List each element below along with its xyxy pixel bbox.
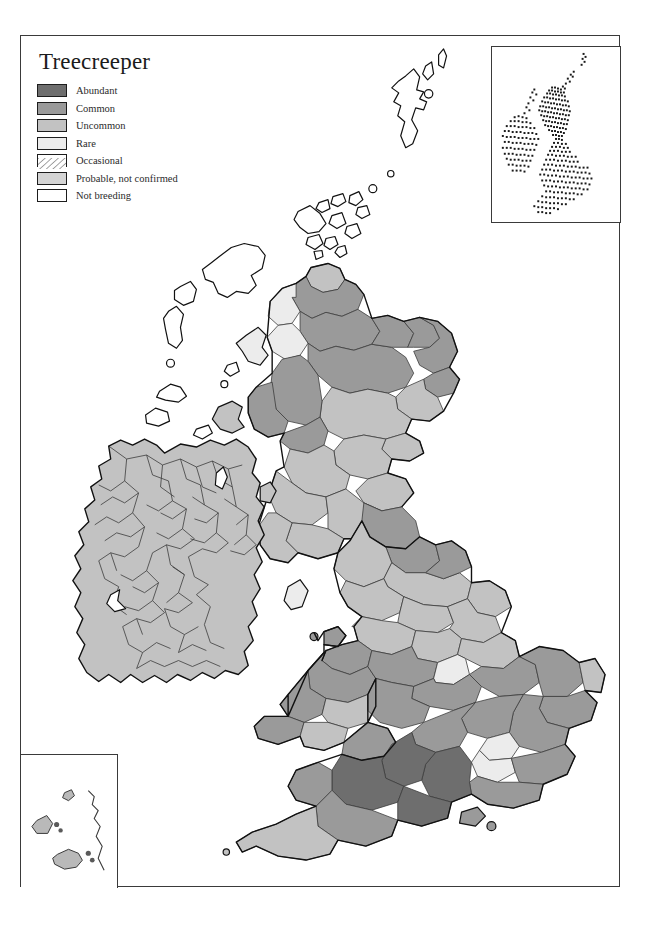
map-page: .abundant {fill:#6e6e6e;} .common {fill:…	[0, 0, 655, 926]
legend-label-common: Common	[76, 103, 115, 114]
legend-swatch-probable	[37, 172, 67, 185]
legend-swatch-common	[37, 102, 67, 115]
legend-item-abundant[interactable]: Abundant	[37, 84, 247, 97]
channel-islands-inset[interactable]	[21, 754, 118, 888]
region-orkney[interactable]	[294, 185, 377, 260]
legend-label-rare: Rare	[76, 138, 96, 149]
legend-swatch-rare	[37, 137, 67, 150]
region-isle-of-man[interactable]	[284, 580, 308, 610]
region-shetland[interactable]	[392, 49, 447, 148]
hatch-pattern-icon	[38, 158, 66, 169]
map-plate: .abundant {fill:#6e6e6e;} .common {fill:…	[20, 35, 620, 887]
scotland-counties[interactable]	[248, 263, 459, 562]
legend-label-not-breeding: Not breeding	[76, 190, 131, 201]
legend-label-abundant: Abundant	[76, 85, 117, 96]
legend-item-not-breeding[interactable]: Not breeding	[37, 189, 247, 202]
channel-islands-svg	[21, 755, 117, 888]
legend-item-probable[interactable]: Probable, not confirmed	[37, 172, 247, 185]
legend-swatch-uncommon	[37, 119, 67, 132]
legend-label-uncommon: Uncommon	[76, 120, 126, 131]
ireland-landmass[interactable]	[73, 439, 264, 682]
dot-distribution-svg	[492, 47, 620, 222]
map-legend: Treecreeper Abundant Common Uncommon Rar…	[37, 50, 247, 207]
region-fair-isle[interactable]	[388, 170, 394, 176]
legend-swatch-abundant	[37, 84, 67, 97]
legend-swatch-occasional	[37, 154, 67, 167]
legend-swatch-not-breeding	[37, 189, 67, 202]
legend-label-probable: Probable, not confirmed	[76, 173, 178, 184]
page-title: Treecreeper	[39, 50, 247, 74]
legend-item-rare[interactable]: Rare	[37, 137, 247, 150]
legend-label-occasional: Occasional	[76, 155, 123, 166]
dot-distribution-inset[interactable]	[491, 46, 621, 223]
legend-item-common[interactable]: Common	[37, 102, 247, 115]
legend-item-uncommon[interactable]: Uncommon	[37, 119, 247, 132]
legend-item-occasional[interactable]: Occasional	[37, 154, 247, 167]
